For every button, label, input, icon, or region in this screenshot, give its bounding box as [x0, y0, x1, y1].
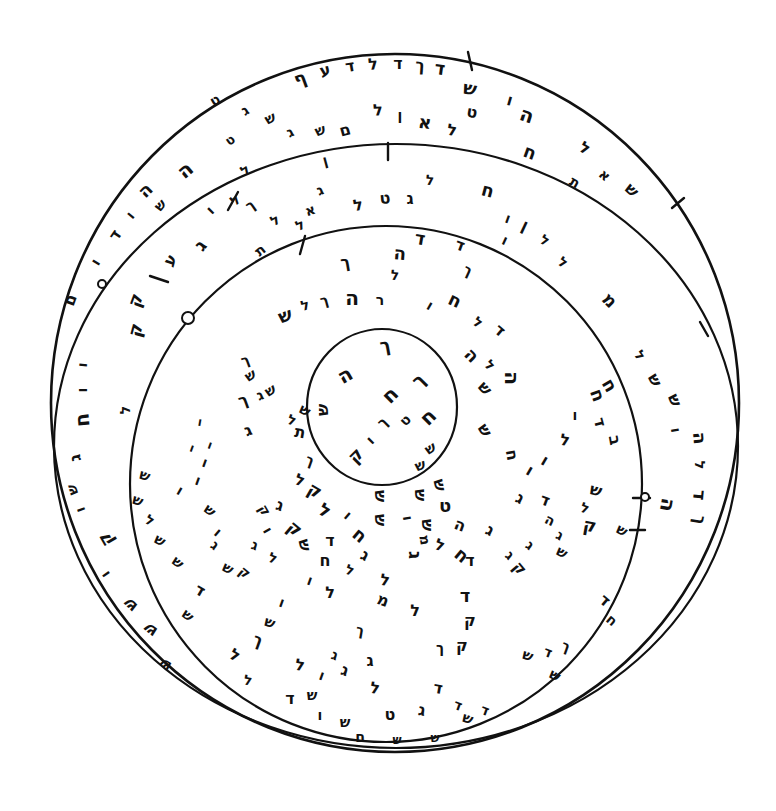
inscription-glyph: ה: [452, 514, 469, 536]
inscription-glyph: ך: [461, 261, 475, 279]
inscription-glyph: ק: [283, 516, 307, 541]
inscription-glyph: ש: [430, 477, 451, 492]
inscription-glyph: ו: [277, 594, 287, 611]
inscription-glyph: ך: [242, 196, 258, 214]
inscription-glyph: ך: [339, 252, 351, 272]
inscription-glyph: ט: [465, 102, 479, 123]
inscription-glyph: ו: [193, 472, 203, 489]
inscription-glyph: ל: [299, 296, 311, 314]
inscription-glyph: ד: [325, 531, 334, 550]
inscription-glyph: ו: [74, 388, 90, 393]
inscription-glyph: ך: [407, 369, 429, 391]
inscription-glyph: ל: [537, 231, 552, 249]
inscription-glyph: ג: [357, 545, 373, 565]
inscription-glyph: ל: [692, 461, 708, 469]
inscription-glyph: ף: [291, 66, 310, 90]
inscription-glyph: ש: [296, 400, 314, 419]
inscription-glyph: ל: [292, 469, 308, 490]
inscription-glyph: ד: [285, 689, 294, 708]
inscription-glyph: ח: [69, 412, 94, 428]
inscription-glyph: ג: [273, 495, 286, 515]
inscription-glyph: ו: [203, 203, 218, 218]
inscription-glyph: ל: [226, 644, 244, 665]
inscription-glyph: ח: [415, 404, 442, 431]
inscription-glyph: ש: [275, 303, 295, 328]
inscription-glyph: ך: [690, 514, 710, 526]
inscription-glyph: ם: [355, 729, 365, 745]
inscription-glyph: ד: [451, 696, 464, 714]
inscription-glyph: ל: [555, 253, 571, 271]
inscription-glyph: ג: [417, 700, 427, 720]
inscription-glyph: ל: [352, 195, 365, 215]
inscription-glyph: ו: [503, 210, 513, 227]
inscription-glyph: ך: [559, 637, 572, 655]
inscription-glyph: ש: [151, 195, 170, 214]
inscription-glyph: ח: [603, 611, 621, 629]
inscription-glyph: ל: [367, 54, 379, 74]
inscription-glyph: ק: [464, 611, 476, 630]
divider-tick: [150, 276, 168, 282]
inscription-glyph: ה: [655, 496, 681, 514]
inscription-glyph: ו: [538, 450, 552, 469]
inscription-glyph: א: [417, 111, 432, 133]
inscription-glyph: ל: [369, 678, 382, 698]
inscription-glyph: ש: [644, 370, 666, 389]
inscription-glyph: ו: [305, 572, 315, 589]
inscription-glyph: ק: [123, 321, 147, 339]
inscription-glyph: ל: [631, 347, 649, 363]
inscription-glyph: ק: [304, 478, 326, 503]
inscription-glyph: ל: [470, 313, 486, 331]
inscription-glyph: ל: [294, 655, 307, 675]
inscription-glyph: ט: [222, 131, 238, 148]
inscription-glyph: א: [302, 201, 317, 220]
inscription-glyph: ש: [151, 530, 169, 549]
inscription-glyph: ק: [509, 557, 531, 578]
inscription-glyph: ל: [446, 120, 458, 140]
inscription-glyph: ו: [188, 441, 197, 456]
inscription-glyph: ו: [260, 524, 276, 536]
inscription-glyph: ה: [133, 178, 157, 202]
inscription-glyph: ג: [553, 527, 566, 544]
inscription-glyph: ד: [490, 320, 509, 341]
inscription-glyph: ל: [559, 430, 572, 450]
inscription-glyph: ו: [97, 568, 113, 581]
inscription-glyph: מ: [416, 534, 434, 547]
divider-tick: [300, 236, 305, 254]
inscription-glyph: ן: [518, 215, 531, 235]
inscription-glyph: ג: [65, 453, 85, 463]
inscription-glyph: ט: [439, 495, 451, 516]
inscription-glyph: ק: [582, 514, 599, 537]
inscription-glyph: ל: [237, 161, 253, 179]
inscription-glyph: ש: [307, 687, 318, 703]
inscription-glyph: ש: [201, 500, 220, 519]
inscription-glyph: ש: [169, 552, 188, 571]
inscription-glyph: ש: [664, 391, 686, 409]
inscription-glyph: ו: [87, 256, 103, 268]
inscription-glyph: ש: [262, 108, 279, 127]
inscription-glyph: ח: [586, 386, 610, 405]
inscription-glyph: ק: [93, 529, 118, 551]
inscription-glyph: ת: [293, 422, 307, 443]
inscription-glyph: ש: [520, 646, 536, 665]
inscription-glyph: ש: [553, 542, 571, 561]
inscription-glyph: ג: [366, 651, 373, 670]
inscription-glyph: ה: [542, 511, 557, 530]
inscription-glyph: ח: [445, 288, 465, 312]
inscription-glyph: ך: [303, 451, 316, 469]
inscription-glyph: ד: [191, 579, 209, 600]
inscription-glyph: ש: [219, 558, 237, 577]
inscription-glyph: ק: [123, 290, 147, 310]
inscription-glyph: מ: [374, 589, 391, 611]
inscription-glyph: ל: [425, 172, 435, 189]
inscription-glyph: ש: [474, 377, 496, 399]
inscription-glyph: ב: [605, 434, 625, 447]
inscription-glyph: ה: [500, 371, 524, 385]
inscription-glyph: ן: [398, 107, 403, 123]
inscription-glyph: ך: [373, 413, 390, 430]
inscription-glyph: ג: [406, 189, 413, 208]
inscription-glyph: ג: [241, 420, 254, 440]
inscription-glyph: ש: [421, 438, 439, 457]
inscription-glyph: ג: [284, 123, 296, 140]
inscription-glyph: ד: [413, 227, 427, 250]
inscription-glyph: ו: [200, 454, 210, 471]
